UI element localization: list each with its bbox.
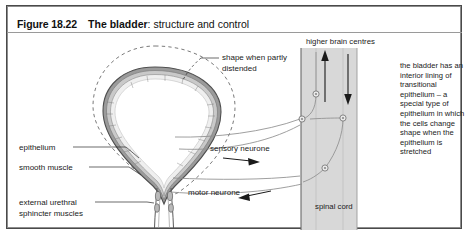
figure-frame: Figure 18.22The bladder: structure and c… [6, 5, 462, 229]
bladder-wall [103, 67, 221, 204]
label-motor-neurone: motor neurone [188, 188, 240, 199]
label-shape-when-partly-distended: shape when partly distended [222, 53, 294, 74]
label-external-urethral-sphincter-muscles: external urethral sphincter muscles [19, 198, 93, 219]
annotation-paragraph: the bladder has an interior lining of tr… [400, 61, 466, 157]
label-higher-brain-centres: higher brain centres [306, 37, 375, 48]
label-epithelium: epithelium [19, 143, 55, 154]
figure-container: Figure 18.22The bladder: structure and c… [0, 0, 475, 235]
label-sensory-neurone: sensory neurone [210, 144, 270, 155]
label-spinal-cord: spinal cord [315, 202, 353, 213]
arrow-right-icon [248, 158, 260, 165]
label-smooth-muscle: smooth muscle [19, 163, 73, 174]
